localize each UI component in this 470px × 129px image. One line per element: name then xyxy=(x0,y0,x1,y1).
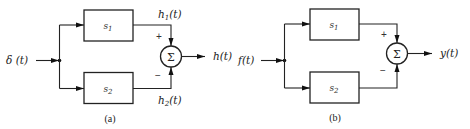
arrow-icon xyxy=(424,51,432,56)
block-diagram-figure: δ (t) s1 s2 h1(t) h2(t) + − Σ xyxy=(0,0,470,129)
panel-a: δ (t) s1 s2 h1(t) h2(t) + − Σ xyxy=(6,8,232,125)
arrow-icon xyxy=(302,86,310,91)
caption-b: (b) xyxy=(329,112,341,124)
arrow-icon xyxy=(302,22,310,27)
h2-label-a: h2(t) xyxy=(158,94,182,108)
line-s2-to-sum-b xyxy=(359,64,397,88)
sigma-icon: Σ xyxy=(393,48,401,61)
panel-b: f(t) s1 s2 + − Σ y(t) (b) xyxy=(237,9,458,124)
arrow-icon xyxy=(395,64,400,72)
minus-sign-a: − xyxy=(155,70,161,81)
arrow-icon xyxy=(76,86,84,91)
caption-a: (a) xyxy=(104,113,115,125)
minus-sign-b: − xyxy=(380,65,386,76)
line-s1-to-sum-b xyxy=(359,24,397,43)
arrow-icon xyxy=(169,38,174,46)
line-s2-to-sum-a xyxy=(133,67,171,89)
input-label-a: δ (t) xyxy=(6,54,28,66)
plus-sign-b: + xyxy=(381,29,387,40)
arrow-icon xyxy=(76,23,84,28)
line-s1-to-sum-a xyxy=(133,25,171,46)
h1-label-a: h1(t) xyxy=(158,8,182,22)
output-label-b: y(t) xyxy=(439,47,458,59)
input-label-b: f(t) xyxy=(237,54,254,66)
arrow-icon xyxy=(395,35,400,43)
arrow-icon xyxy=(197,54,205,59)
plus-sign-a: + xyxy=(156,31,162,42)
arrow-icon xyxy=(169,67,174,75)
sigma-icon: Σ xyxy=(167,51,175,64)
output-label-a: h(t) xyxy=(213,50,232,62)
